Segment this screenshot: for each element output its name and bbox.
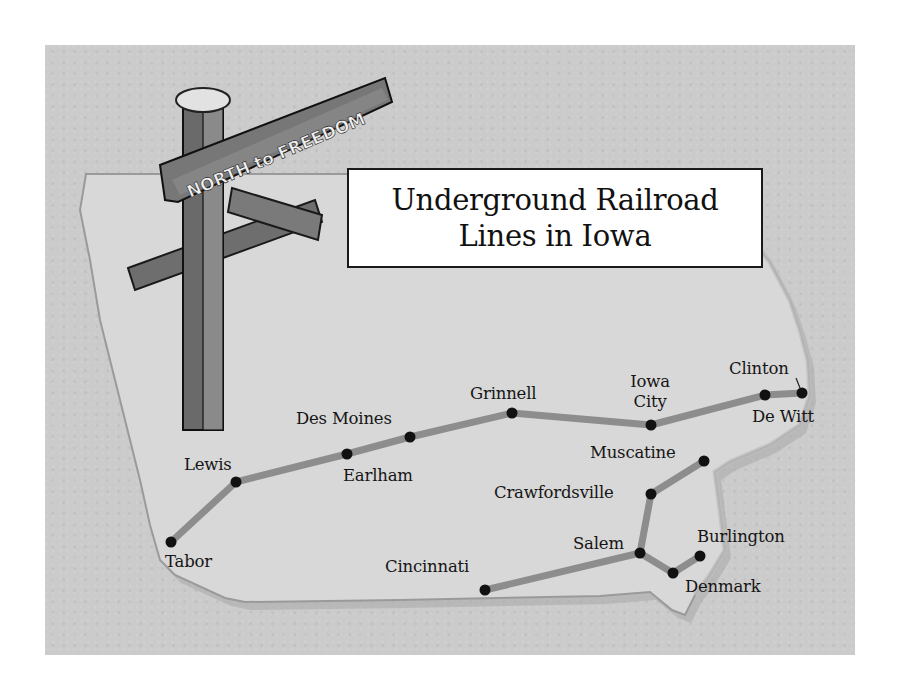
dot-crawfordsville — [646, 489, 657, 500]
label-salem: Salem — [573, 535, 624, 553]
label-tabor: Tabor — [165, 553, 212, 571]
label-iowa-city-2: City — [626, 393, 674, 411]
dot-earlham — [342, 449, 353, 460]
dot-burlington — [695, 551, 706, 562]
dot-de-witt — [760, 390, 771, 401]
label-cincinnati: Cincinnati — [385, 558, 469, 576]
iowa-map: NORTH to FREEDOM — [0, 0, 902, 687]
label-muscatine: Muscatine — [590, 444, 676, 462]
dot-cincinnati — [480, 585, 491, 596]
dot-tabor — [166, 537, 177, 548]
dot-denmark — [668, 568, 679, 579]
label-earlham: Earlham — [343, 467, 413, 485]
dot-des-moines — [405, 432, 416, 443]
dot-clinton — [797, 388, 808, 399]
label-lewis: Lewis — [184, 456, 232, 474]
title-line-2: Lines in Iowa — [459, 218, 652, 254]
label-clinton: Clinton — [729, 360, 789, 378]
title-line-1: Underground Railroad — [391, 182, 718, 218]
map-title-box: Underground Railroad Lines in Iowa — [347, 168, 763, 268]
label-de-witt: De Witt — [752, 408, 814, 426]
dot-salem — [635, 548, 646, 559]
label-denmark: Denmark — [685, 578, 761, 596]
label-iowa-city-1: Iowa — [626, 373, 674, 391]
label-grinnell: Grinnell — [470, 385, 536, 403]
label-burlington: Burlington — [697, 528, 785, 546]
label-des-moines: Des Moines — [296, 410, 392, 428]
label-crawfordsville: Crawfordsville — [494, 484, 614, 502]
dot-iowa-city — [646, 420, 657, 431]
dot-muscatine — [699, 456, 710, 467]
dot-lewis — [231, 477, 242, 488]
dot-grinnell — [507, 408, 518, 419]
